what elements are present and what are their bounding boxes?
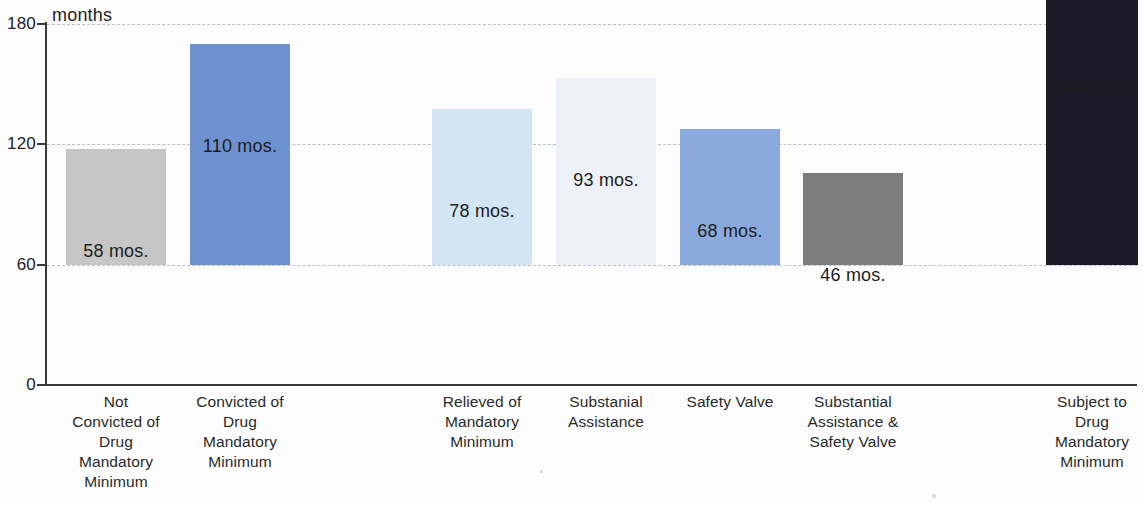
category-label-line: Substantial <box>789 392 917 412</box>
category-label-line: Assistance <box>542 412 670 432</box>
category-label-line: Drug <box>176 412 304 432</box>
bar-value-label: 110 mos. <box>170 137 310 155</box>
bar <box>432 109 532 265</box>
category-label-line: Minimum <box>176 452 304 472</box>
category-label-line: Drug <box>52 432 180 452</box>
bar-value-label: 58 mos. <box>46 242 186 260</box>
category-label: SubstanialAssistance <box>542 392 670 432</box>
category-label-line: Safety Valve <box>664 392 796 412</box>
category-label: SubstantialAssistance &Safety Valve <box>789 392 917 452</box>
bar-value-label: 78 mos. <box>412 202 552 220</box>
category-label-line: Convicted of <box>52 412 180 432</box>
category-label: Relieved ofMandatoryMinimum <box>418 392 546 452</box>
scan-speck <box>932 494 936 498</box>
bar <box>803 173 903 265</box>
category-label-line: Drug <box>1028 412 1144 432</box>
category-label-line: Subject to <box>1028 392 1144 412</box>
category-label: Safety Valve <box>664 392 796 412</box>
scan-edge <box>0 502 1144 506</box>
scan-speck <box>540 470 543 473</box>
category-label-line: Minimum <box>52 472 180 492</box>
category-label-line: Mandatory <box>418 412 546 432</box>
category-label-line: Relieved of <box>418 392 546 412</box>
category-label: Convicted ofDrugMandatoryMinimum <box>176 392 304 472</box>
category-label: Subject toDrugMandatoryMinimum <box>1028 392 1144 472</box>
category-label-line: Convicted of <box>176 392 304 412</box>
bar-value-label: 140 mos. <box>1026 77 1144 95</box>
category-label-line: Mandatory <box>52 452 180 472</box>
category-label-line: Minimum <box>418 432 546 452</box>
category-label-line: Assistance & <box>789 412 917 432</box>
category-label-line: Safety Valve <box>789 432 917 452</box>
category-label-line: Substanial <box>542 392 670 412</box>
category-label: NotConvicted ofDrugMandatoryMinimum <box>52 392 180 492</box>
category-label-line: Mandatory <box>1028 432 1144 452</box>
bar-value-label: 93 mos. <box>536 171 676 189</box>
bar-value-label: 46 mos. <box>783 266 923 284</box>
bar <box>1046 0 1138 265</box>
bars-container <box>0 0 1144 386</box>
bar-chart: months 060120180 58 mos.110 mos.78 mos.9… <box>0 0 1144 506</box>
category-label-line: Mandatory <box>176 432 304 452</box>
bar-value-label: 68 mos. <box>660 222 800 240</box>
bar <box>680 129 780 265</box>
category-label-line: Not <box>52 392 180 412</box>
category-label-line: Minimum <box>1028 452 1144 472</box>
